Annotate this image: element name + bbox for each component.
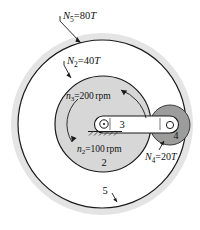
label-sun-value: 40 (84, 55, 95, 66)
label-ring-gear-teeth: N5=80T (62, 10, 97, 24)
label-arm-speed-unit: rpm (95, 91, 111, 101)
body-number-sun: 2 (101, 157, 106, 168)
arm-right-pivot (166, 121, 173, 128)
label-arm-speed-value: 200 (80, 91, 95, 101)
label-sun-speed-value: 100 (91, 144, 106, 154)
gear-train-diagram: N5=80T N2=40T n3=200rpm n2=100rpm N4=20T… (0, 0, 200, 230)
label-sun-speed-unit: rpm (106, 144, 122, 154)
body-number-arm: 3 (119, 119, 124, 130)
label-planet-value: 20 (161, 151, 171, 162)
label-ring-value: 80 (80, 10, 91, 21)
figure-canvas: N5=80T N2=40T n3=200rpm n2=100rpm N4=20T… (0, 0, 200, 230)
body-number-ring: 5 (102, 185, 107, 196)
body-number-planet: 4 (174, 130, 179, 141)
label-ring-unit: T (90, 10, 97, 21)
arm-left-pivot-dot (103, 123, 105, 125)
